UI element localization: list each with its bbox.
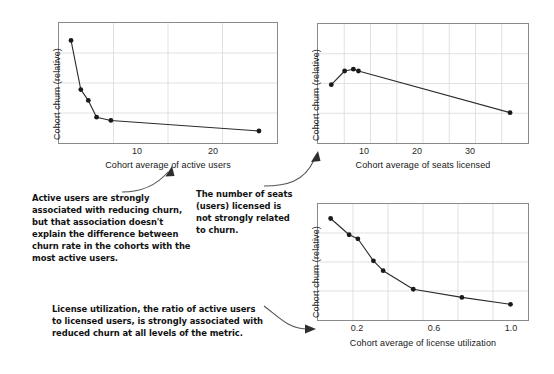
x-tick-label: 20 xyxy=(208,146,218,156)
x-tick-label: 0.6 xyxy=(428,323,441,333)
x-axis-title-license-utilization: Cohort average of license utilization xyxy=(317,338,529,348)
plot-area-license-utilization xyxy=(317,203,529,321)
x-tick-label: 10 xyxy=(132,146,142,156)
x-axis-title-seats-licensed: Cohort average of seats licensed xyxy=(317,160,529,170)
plot-svg-license-utilization xyxy=(318,204,528,320)
x-axis-title-active-users: Cohort average of active users xyxy=(58,160,278,170)
annotation-seats-licensed: The number of seats (users) licensed is … xyxy=(196,188,294,236)
plot-area-seats-licensed xyxy=(317,23,529,144)
connector-arrow-seats-licensed xyxy=(262,148,332,192)
y-axis-title-seats-licensed: Cohort churn (relative) xyxy=(311,49,321,141)
plot-svg-seats-licensed xyxy=(318,24,528,143)
y-axis-title-active-users: Cohort churn (relative) xyxy=(52,48,62,140)
x-tick-label: 0.2 xyxy=(351,323,364,333)
x-tick-label: 20 xyxy=(412,146,422,156)
x-tick-label: 10 xyxy=(359,146,369,156)
annotation-license-utilization: License utilization, the ratio of active… xyxy=(52,303,264,339)
plot-area-active-users xyxy=(58,22,278,144)
annotation-active-users: Active users are strongly associated wit… xyxy=(32,192,198,265)
y-axis-title-license-utilization: Cohort churn (relative) xyxy=(311,226,321,318)
x-tick-label: 1.0 xyxy=(505,323,518,333)
x-tick-label: 30 xyxy=(465,146,475,156)
plot-svg-active-users xyxy=(59,23,277,143)
